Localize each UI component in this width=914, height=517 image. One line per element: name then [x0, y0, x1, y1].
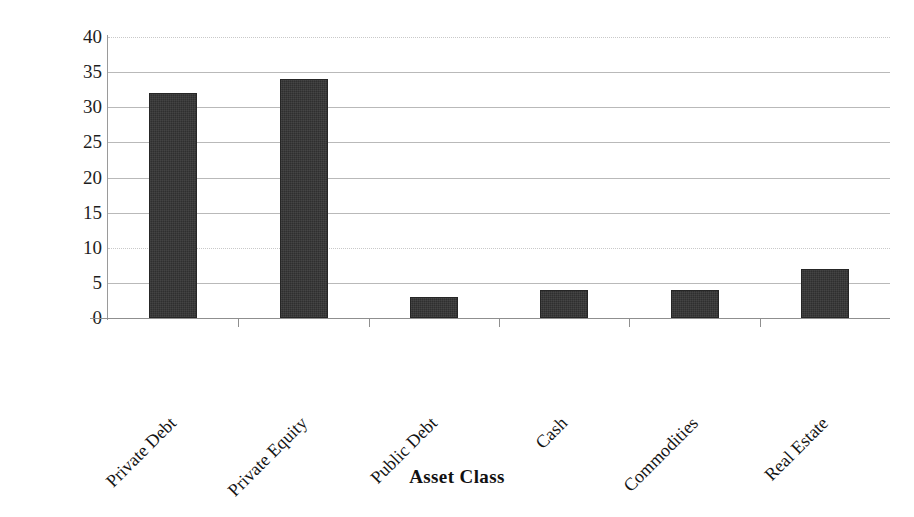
bar-chart: Frequency 0510152025303540 Private DebtP… — [0, 0, 914, 517]
bar — [149, 93, 197, 318]
x-axis-tick — [499, 318, 500, 327]
x-axis-tick — [760, 318, 761, 327]
x-axis-tick-label: Private Equity — [155, 413, 311, 517]
x-axis-tick — [369, 318, 370, 327]
y-axis-tick-label: 15 — [58, 203, 102, 222]
bar — [671, 290, 719, 318]
y-axis-zero-tick — [90, 318, 108, 319]
x-axis-tick-label: Private Debt — [25, 413, 181, 517]
y-axis-tick-label: 5 — [58, 273, 102, 292]
y-axis-tick-label: 25 — [58, 132, 102, 151]
bar-series — [108, 37, 890, 318]
x-axis-line — [90, 318, 890, 319]
x-axis-tick — [238, 318, 239, 327]
x-axis-tick-label: Commodities — [546, 413, 702, 517]
bar — [540, 290, 588, 318]
y-axis-tick-label: 20 — [58, 168, 102, 187]
x-axis-tick-label: Cash — [416, 413, 572, 517]
bar — [280, 79, 328, 318]
y-axis-tick-label: 10 — [58, 238, 102, 257]
y-axis-tick-label: 35 — [58, 62, 102, 81]
y-axis-tick-label: 30 — [58, 97, 102, 116]
y-axis-tick-label: 40 — [58, 27, 102, 46]
x-axis-tick-label: Public Debt — [285, 413, 441, 517]
y-axis-tick-labels: 0510152025303540 — [58, 26, 102, 318]
bar — [410, 297, 458, 318]
x-axis-tick — [629, 318, 630, 327]
bar — [801, 269, 849, 318]
x-axis-tick-label: Real Estate — [676, 413, 832, 517]
x-axis-title: Asset Class — [0, 466, 914, 488]
